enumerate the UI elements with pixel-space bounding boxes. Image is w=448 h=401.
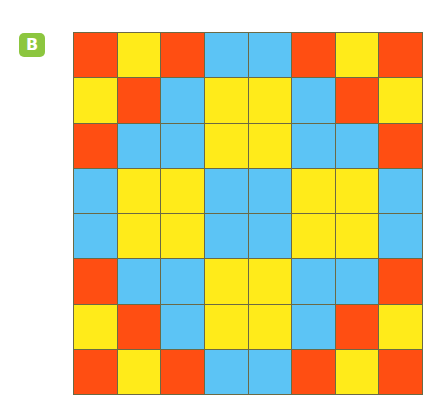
grid-cell-yellow bbox=[336, 169, 379, 213]
grid-cell-yellow bbox=[161, 169, 204, 213]
grid-cell-blue bbox=[118, 259, 161, 303]
grid-cell-yellow bbox=[118, 33, 161, 77]
grid-cell-yellow bbox=[74, 78, 117, 122]
grid-cell-red bbox=[379, 259, 422, 303]
grid-cell-blue bbox=[336, 259, 379, 303]
grid-cell-red bbox=[74, 259, 117, 303]
grid-cell-blue bbox=[292, 124, 335, 168]
grid-cell-blue bbox=[249, 350, 292, 394]
grid-cell-red bbox=[118, 78, 161, 122]
figure-label-badge: B bbox=[19, 33, 45, 57]
grid-cell-red bbox=[292, 33, 335, 77]
grid-cell-yellow bbox=[379, 305, 422, 349]
grid-cell-blue bbox=[205, 350, 248, 394]
grid-cell-blue bbox=[161, 259, 204, 303]
grid-cell-blue bbox=[161, 305, 204, 349]
grid-cell-red bbox=[336, 305, 379, 349]
grid-cell-yellow bbox=[249, 78, 292, 122]
grid-cell-blue bbox=[336, 124, 379, 168]
grid-cell-red bbox=[161, 33, 204, 77]
grid-cell-blue bbox=[205, 169, 248, 213]
grid-cell-yellow bbox=[118, 169, 161, 213]
color-tile-grid bbox=[73, 32, 423, 395]
grid-cell-yellow bbox=[161, 214, 204, 258]
grid-cell-yellow bbox=[118, 350, 161, 394]
grid-cell-yellow bbox=[336, 214, 379, 258]
grid-cell-yellow bbox=[74, 305, 117, 349]
grid-cell-yellow bbox=[205, 124, 248, 168]
grid-cell-blue bbox=[205, 214, 248, 258]
grid-cell-blue bbox=[292, 305, 335, 349]
grid-cell-blue bbox=[379, 214, 422, 258]
grid-cell-yellow bbox=[249, 124, 292, 168]
grid-cell-red bbox=[161, 350, 204, 394]
grid-cell-yellow bbox=[292, 169, 335, 213]
grid-cell-yellow bbox=[205, 78, 248, 122]
grid-cell-blue bbox=[292, 259, 335, 303]
grid-cell-blue bbox=[161, 124, 204, 168]
grid-cell-red bbox=[74, 33, 117, 77]
grid-cell-yellow bbox=[205, 305, 248, 349]
grid-cell-yellow bbox=[379, 78, 422, 122]
grid-cell-blue bbox=[161, 78, 204, 122]
grid-cell-blue bbox=[74, 169, 117, 213]
grid-cell-red bbox=[292, 350, 335, 394]
grid-cell-red bbox=[379, 350, 422, 394]
grid-cell-red bbox=[74, 350, 117, 394]
grid-cell-red bbox=[118, 305, 161, 349]
grid-cell-blue bbox=[292, 78, 335, 122]
grid-cell-red bbox=[74, 124, 117, 168]
grid-cell-red bbox=[336, 78, 379, 122]
grid-cell-yellow bbox=[249, 305, 292, 349]
grid-cell-yellow bbox=[205, 259, 248, 303]
grid-cell-blue bbox=[249, 169, 292, 213]
grid-cell-yellow bbox=[292, 214, 335, 258]
grid-cell-blue bbox=[249, 33, 292, 77]
grid-cell-yellow bbox=[336, 33, 379, 77]
grid-cell-blue bbox=[379, 169, 422, 213]
grid-cell-blue bbox=[118, 124, 161, 168]
grid-cell-yellow bbox=[118, 214, 161, 258]
grid-cell-red bbox=[379, 33, 422, 77]
grid-cell-blue bbox=[249, 214, 292, 258]
grid-cell-red bbox=[379, 124, 422, 168]
grid-cell-blue bbox=[74, 214, 117, 258]
grid-cell-blue bbox=[205, 33, 248, 77]
grid-cell-yellow bbox=[336, 350, 379, 394]
grid-cell-yellow bbox=[249, 259, 292, 303]
